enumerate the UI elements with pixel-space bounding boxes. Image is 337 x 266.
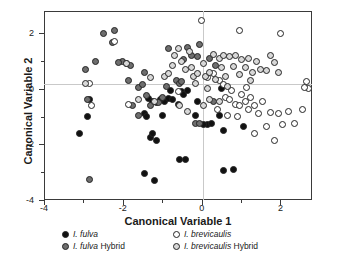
y-tick-major <box>39 33 44 34</box>
data-point <box>100 30 107 37</box>
data-point <box>271 59 278 66</box>
data-point <box>263 123 270 130</box>
data-point <box>214 106 221 113</box>
legend-label: I. fulva Hybrid <box>73 241 125 251</box>
legend-item-f: I. fulva <box>62 229 159 239</box>
data-point <box>192 80 199 87</box>
legend-item-b: I. brevicaulis <box>173 229 292 239</box>
legend-label: I. brevicaulis Hybrid <box>184 241 258 251</box>
data-point <box>92 58 99 65</box>
data-point <box>299 106 306 113</box>
data-point <box>253 58 260 65</box>
data-point <box>230 166 237 173</box>
data-point <box>82 80 89 87</box>
data-point <box>178 58 185 65</box>
y-tick-minor <box>41 117 44 118</box>
data-point <box>196 41 203 48</box>
y-tick-major <box>39 200 44 201</box>
data-point <box>249 69 256 76</box>
y-axis-title: Canonical Variable 2 <box>22 21 34 201</box>
data-point <box>212 76 219 83</box>
data-point <box>153 137 160 144</box>
x-tick-minor <box>162 200 163 203</box>
data-point <box>86 176 93 183</box>
data-point <box>82 66 89 73</box>
y-tick-label: -4 <box>0 195 34 205</box>
data-point <box>192 112 199 119</box>
x-axis-title: Canonical Variable 1 <box>44 215 312 227</box>
data-point <box>234 113 241 120</box>
data-point <box>291 120 298 127</box>
data-point <box>208 120 215 127</box>
data-point <box>236 27 243 34</box>
data-point <box>76 130 83 137</box>
x-tick-label: 0 <box>199 203 204 213</box>
data-point <box>275 69 282 76</box>
y-tick-label: 2 <box>0 28 34 38</box>
data-point <box>135 112 142 119</box>
data-point <box>238 91 245 98</box>
data-point <box>159 112 166 119</box>
y-tick-minor <box>41 61 44 62</box>
data-point <box>175 88 182 95</box>
data-point <box>125 101 132 108</box>
data-point <box>301 84 308 91</box>
x-tick-label: 2 <box>278 203 283 213</box>
data-point <box>206 69 213 76</box>
data-point <box>163 83 170 90</box>
data-point <box>88 102 95 109</box>
data-point <box>184 108 191 115</box>
data-point <box>165 45 172 52</box>
x-tick-minor <box>241 200 242 203</box>
legend: I. fulvaI. brevicaulisI. fulva HybridI. … <box>62 229 292 251</box>
y-tick-label: 0 <box>0 84 34 94</box>
data-point <box>149 130 156 137</box>
data-point <box>224 83 231 90</box>
legend-item-fh: I. fulva Hybrid <box>62 241 159 251</box>
data-point <box>220 127 227 134</box>
x-tick-label: -2 <box>119 203 127 213</box>
data-point <box>224 112 231 119</box>
data-point <box>285 108 292 115</box>
data-point <box>238 56 245 63</box>
data-point <box>175 45 182 52</box>
y-tick-major <box>39 144 44 145</box>
data-point <box>151 98 158 105</box>
data-point <box>159 94 166 101</box>
legend-marker-icon <box>173 243 180 250</box>
data-point <box>84 113 91 120</box>
data-point <box>216 98 223 105</box>
data-point <box>230 63 237 70</box>
legend-label: I. brevicaulis <box>184 229 231 239</box>
data-point <box>169 62 176 69</box>
data-point <box>236 71 243 78</box>
legend-marker-icon <box>62 231 69 238</box>
data-point <box>151 177 158 184</box>
legend-marker-icon <box>173 231 180 238</box>
data-point <box>171 52 178 59</box>
legend-item-bh: I. brevicaulis Hybrid <box>173 241 292 251</box>
data-point <box>240 123 247 130</box>
data-point <box>267 109 274 116</box>
x-tick-label: -4 <box>40 203 48 213</box>
x-tick-minor <box>83 200 84 203</box>
data-point <box>222 73 229 80</box>
data-point <box>165 70 172 77</box>
data-point <box>271 137 278 144</box>
legend-marker-icon <box>62 243 69 250</box>
y-tick-label: -2 <box>0 139 34 149</box>
y-tick-major <box>39 89 44 90</box>
y-tick-minor <box>41 172 44 173</box>
scatter-plot-figure: Canonical Variable 2 -4-20220-2-4 Canoni… <box>0 0 337 266</box>
legend-label: I. fulva <box>73 229 98 239</box>
data-point <box>277 30 284 37</box>
